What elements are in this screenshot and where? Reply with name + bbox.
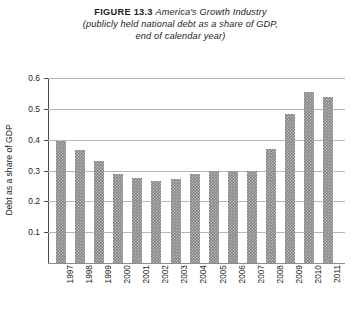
x-axis-tick-label: 2001 [141,265,151,283]
bar [266,149,276,263]
bar [132,178,142,263]
x-axis-line [48,263,345,264]
bar [228,171,238,264]
x-axis-tick-label: 2010 [313,265,323,283]
x-axis-tick-label: 2002 [160,265,170,283]
figure-title-text: America's Growth Industry [155,7,266,17]
bar [171,179,181,263]
x-axis-tick-label: 2004 [198,265,208,283]
bar [151,181,161,263]
figure-subtitle-line-1: (publicly held national debt as a share … [0,18,361,30]
figure-subtitle-line-2: end of calendar year) [0,30,361,42]
y-axis-tick-labels: 0.60.50.40.30.20.1 [0,78,46,268]
bar [304,92,314,263]
plot-area [48,78,345,263]
x-axis-tick-label: 1999 [103,265,113,283]
x-axis-tick-label: 2011 [332,265,342,283]
x-axis-tick-label: 2005 [218,265,228,283]
bar [209,171,219,264]
y-axis-tick-label: 0.4 [28,135,40,145]
bar [285,114,295,263]
x-axis-tick-label: 2006 [237,265,247,283]
x-axis-tick-label: 2003 [179,265,189,283]
y-axis-tick-label: 0.1 [28,227,40,237]
figure-container: FIGURE 13.3 America's Growth Industry (p… [0,0,361,322]
bar [94,161,104,263]
x-axis-tick-label: 2008 [275,265,285,283]
x-axis-tick-label: 1998 [84,265,94,283]
bar [190,174,200,263]
x-axis-tick-label: 1997 [65,265,75,283]
y-axis-tick-label: 0.3 [28,166,40,176]
bar [323,97,333,264]
x-axis-tick-label: 2000 [122,265,132,283]
bar [113,174,123,263]
y-axis-tick-label: 0.2 [28,196,40,206]
y-axis-tick-label: 0.6 [28,73,40,83]
bar-series [48,78,345,263]
bar [56,141,66,263]
x-axis-tick-label: 2007 [256,265,266,283]
figure-title-block: FIGURE 13.3 America's Growth Industry (p… [0,6,361,43]
bar [247,171,257,264]
bar [75,150,85,263]
x-axis-tick-label: 2009 [294,265,304,283]
figure-number: FIGURE 13.3 [94,7,152,17]
y-axis-tick-label: 0.5 [28,104,40,114]
x-axis-tick-labels: 1997199819992000200120022003200420052006… [48,265,345,321]
figure-title: FIGURE 13.3 America's Growth Industry [0,6,361,18]
